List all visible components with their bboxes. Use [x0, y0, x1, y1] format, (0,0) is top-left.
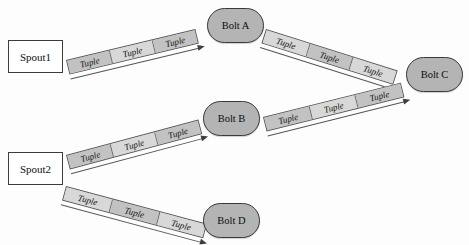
- diagram-canvas: ··· ···· ·· ···· ·· ····· ···· Tuple Tup…: [0, 0, 469, 245]
- arrow-head-icon: [403, 97, 411, 105]
- node-label: Spout2: [20, 163, 51, 175]
- node-label: Spout1: [20, 51, 51, 63]
- tuple-segment: Tuple: [157, 212, 206, 237]
- stream-spout2-to-bolt-d: Tuple Tuple Tuple: [66, 186, 207, 224]
- tuple-segment: Tuple: [263, 30, 310, 56]
- stream-spout2-to-bolt-b: Tuple Tuple Tuple: [66, 120, 198, 155]
- node-label: Bolt C: [421, 69, 449, 80]
- node-bolt-c[interactable]: Bolt C: [406, 57, 463, 92]
- tuple-bar: Tuple Tuple Tuple: [261, 29, 397, 85]
- stream-bolt-a-to-bolt-c: Tuple Tuple Tuple: [266, 29, 398, 70]
- node-label: Bolt D: [217, 215, 245, 226]
- tuple-segment: Tuple: [63, 187, 113, 212]
- stream-spout1-to-bolt-a: Tuple Tuple Tuple: [66, 29, 195, 60]
- node-bolt-a[interactable]: Bolt A: [207, 8, 264, 43]
- node-bolt-b[interactable]: Bolt B: [203, 101, 260, 136]
- arrow-head-icon: [197, 43, 205, 50]
- stream-bolt-b-to-bolt-c: Tuple Tuple Tuple: [263, 83, 401, 117]
- node-spout1[interactable]: Spout1: [8, 40, 63, 73]
- node-label: Bolt A: [222, 20, 250, 31]
- node-label: Bolt B: [218, 113, 246, 124]
- node-spout2[interactable]: Spout2: [8, 152, 63, 185]
- tuple-bar: Tuple Tuple Tuple: [62, 186, 207, 238]
- tuple-segment: Tuple: [110, 200, 160, 225]
- arrow-head-icon: [201, 134, 209, 142]
- clipped-header-text: ··· ···· ·· ···· ·· ····· ····: [0, 0, 190, 7]
- tuple-segment: Tuple: [306, 44, 353, 70]
- node-bolt-d[interactable]: Bolt D: [203, 203, 260, 238]
- tuple-segment: Tuple: [350, 58, 397, 84]
- arrow-head-icon: [199, 239, 207, 245]
